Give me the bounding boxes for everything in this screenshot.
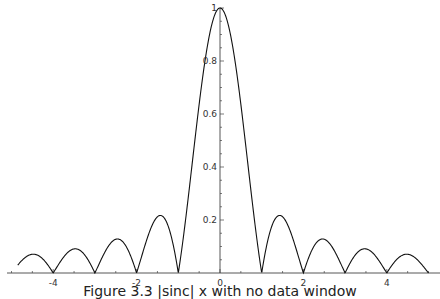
sinc-curve [18,8,429,273]
axes [7,8,440,273]
figure-caption: Figure 3.3 |sinc| x with no data window [0,283,440,299]
y-tick-label: 0.6 [203,109,218,119]
y-tick-label: 0.4 [203,162,218,172]
y-tick-label: 1 [211,3,217,13]
y-tick-label: 0.2 [203,215,217,225]
y-tick-label: 0.8 [203,56,218,66]
tick-labels: -4-20240.20.40.60.81 [49,3,390,288]
